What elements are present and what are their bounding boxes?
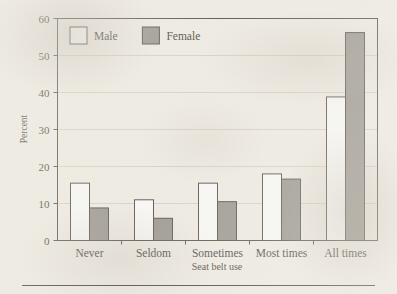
y-axis-title: Percent (19, 114, 29, 143)
x-category-label-sometimes: Sometimes (192, 247, 244, 259)
bar-male-seldom (135, 200, 154, 241)
y-tick-label-30: 30 (39, 124, 51, 136)
bar-group (71, 33, 365, 241)
chart-legend: MaleFemale (70, 27, 200, 44)
y-tick-label-60: 60 (39, 13, 51, 25)
bar-female-sometimes (218, 202, 237, 241)
legend-label-female: Female (166, 30, 200, 42)
bar-male-sometimes (199, 183, 218, 240)
y-axis: 0102030405060 (39, 13, 58, 247)
bar-female-most-times (282, 179, 301, 240)
x-category-label-seldom: Seldom (136, 247, 171, 259)
chart-canvas: 0102030405060 NeverSeldomSometimesMost t… (0, 0, 397, 294)
bar-male-all-times (327, 97, 346, 241)
y-tick-label-10: 10 (39, 198, 51, 210)
bar-female-seldom (154, 218, 173, 240)
bar-male-most-times (263, 174, 282, 241)
bar-female-never (90, 208, 109, 241)
y-tick-label-20: 20 (39, 161, 51, 173)
x-category-label-all-times: All times (324, 247, 367, 259)
x-axis-title: Seat belt use (192, 261, 243, 272)
legend-swatch-male (70, 27, 87, 44)
seat-belt-use-bar-chart: 0102030405060 NeverSeldomSometimesMost t… (0, 0, 397, 294)
x-category-label-never: Never (75, 247, 103, 259)
y-tick-label-50: 50 (39, 50, 51, 62)
x-category-label-most-times: Most times (256, 247, 308, 259)
y-tick-label-0: 0 (44, 235, 50, 247)
bar-male-never (71, 183, 90, 240)
legend-swatch-female (142, 27, 159, 44)
legend-label-male: Male (94, 30, 118, 42)
y-tick-label-40: 40 (39, 87, 51, 99)
bar-female-all-times (346, 33, 365, 241)
x-axis: NeverSeldomSometimesMost timesAll times (75, 241, 367, 259)
